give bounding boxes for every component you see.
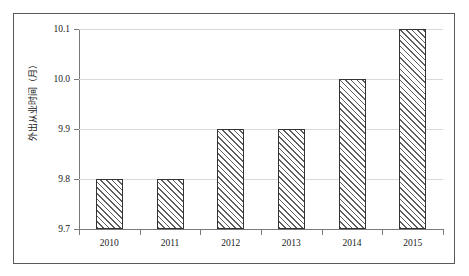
plot-area bbox=[79, 29, 443, 229]
bar-2014 bbox=[339, 79, 366, 229]
gridline bbox=[79, 179, 443, 180]
bar-2013 bbox=[278, 129, 305, 229]
y-axis-tick-label: 10.1 bbox=[26, 24, 70, 34]
chart-figure: 外出从业时间（月） 9.79.89.910.010.12010201120122… bbox=[0, 0, 469, 276]
y-axis-tick-label-text: 9.8 bbox=[30, 174, 70, 184]
y-axis-tick-mark bbox=[74, 129, 79, 130]
x-axis-tick-mark bbox=[200, 230, 201, 235]
y-axis-tick-label: 9.9 bbox=[26, 124, 70, 134]
x-axis-tick-mark bbox=[140, 230, 141, 235]
y-axis-tick-label-text: 9.7 bbox=[30, 224, 70, 234]
x-axis-tick-label: 2014 bbox=[321, 237, 383, 249]
y-axis-tick-label: 10.0 bbox=[26, 74, 70, 84]
x-axis-tick-label: 2011 bbox=[139, 237, 201, 249]
gridline bbox=[79, 129, 443, 130]
x-axis-tick-mark bbox=[261, 230, 262, 235]
bar-2010 bbox=[96, 179, 123, 229]
x-axis-tick-label: 2015 bbox=[382, 237, 444, 249]
y-axis-title: 外出从业时间（月） bbox=[25, 40, 41, 160]
bar-2015 bbox=[399, 29, 426, 229]
gridline bbox=[79, 29, 443, 30]
x-axis-tick-mark bbox=[322, 230, 323, 235]
bar-2012 bbox=[217, 129, 244, 229]
y-axis-tick-label-text: 10.0 bbox=[30, 74, 70, 84]
gridline bbox=[79, 79, 443, 80]
y-axis-tick-label: 9.7 bbox=[26, 224, 70, 234]
y-axis-tick-label-text: 9.9 bbox=[30, 124, 70, 134]
y-axis-tick-label-text: 10.1 bbox=[30, 24, 70, 34]
bar-2011 bbox=[157, 179, 184, 229]
x-axis-tick-label: 2013 bbox=[260, 237, 322, 249]
y-axis-tick-mark bbox=[74, 179, 79, 180]
y-axis-tick-label: 9.8 bbox=[26, 174, 70, 184]
x-axis-tick-mark bbox=[382, 230, 383, 235]
x-axis-tick-mark bbox=[79, 230, 80, 235]
y-axis-tick-mark bbox=[74, 29, 79, 30]
y-axis-tick-mark bbox=[74, 79, 79, 80]
x-axis-tick-mark bbox=[443, 230, 444, 235]
x-axis-tick-label: 2010 bbox=[78, 237, 140, 249]
x-axis-tick-label: 2012 bbox=[200, 237, 262, 249]
